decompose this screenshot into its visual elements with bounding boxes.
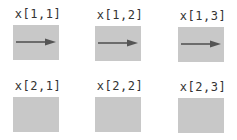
subplot-label: x[2,1] [12,79,64,93]
subplot-panel [95,26,141,61]
subplot-x-1-1: x[1,1] [12,7,72,69]
subplot-x-1-3: x[1,3] [177,9,237,71]
subplot-x-1-2: x[1,2] [94,8,154,70]
subplot-x-2-2: x[2,2] [94,79,154,140]
subplot-panel [178,98,224,133]
subplot-x-2-3: x[2,3] [177,80,237,140]
subplot-panel [95,97,141,132]
subplot-label: x[1,2] [94,8,146,22]
subplot-label: x[2,3] [177,80,229,94]
arrow-right-icon [16,38,56,46]
arrow-right-icon [181,40,221,48]
subplot-grid: x[1,1] x[1,2] x[1,3] x[2,1] [0,0,237,140]
subplot-panel [13,97,59,132]
subplot-panel [13,25,59,60]
subplot-x-2-1: x[2,1] [12,79,72,140]
subplot-label: x[1,3] [177,9,229,23]
subplot-label: x[2,2] [94,79,146,93]
arrow-right-icon [98,39,138,47]
subplot-label: x[1,1] [12,7,64,21]
subplot-panel [178,27,224,62]
